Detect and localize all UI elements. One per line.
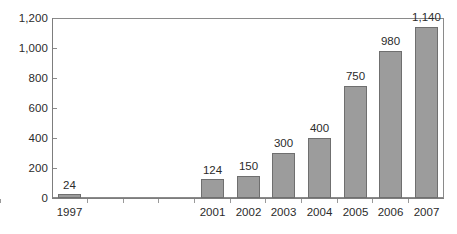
bar-2005[interactable] (344, 86, 367, 199)
x-tick-mark (408, 199, 409, 203)
y-tick-mark-400 (53, 138, 57, 139)
y-tick-mark-200 (53, 168, 57, 169)
bar-2006[interactable] (379, 51, 402, 198)
bar-value-1997: 24 (46, 180, 93, 192)
bar-value-2007: 1,140 (399, 12, 454, 24)
bar-value-2002: 150 (225, 161, 272, 173)
x-tick-mark (0, 199, 1, 203)
y-tick-label-400: 400 (4, 133, 48, 145)
x-tick-mark (87, 199, 88, 203)
bar-2002[interactable] (237, 176, 260, 199)
x-tick-label-1997: 1997 (46, 207, 93, 219)
x-tick-mark (194, 199, 195, 203)
y-tick-mark-600 (53, 108, 57, 109)
x-tick-mark (301, 199, 302, 203)
x-tick-mark (265, 199, 266, 203)
bar-2003[interactable] (272, 153, 295, 198)
x-tick-mark (337, 199, 338, 203)
bar-2004[interactable] (308, 138, 331, 198)
bar-value-2003: 300 (260, 138, 307, 150)
bar-chart-figure: 1,200 1,000 800 600 400 200 0 24 124 150… (0, 0, 457, 234)
y-tick-mark-800 (53, 78, 57, 79)
y-tick-label-0: 0 (4, 193, 48, 205)
y-tick-label-1200: 1,200 (4, 13, 48, 25)
bar-value-2006: 980 (367, 36, 414, 48)
y-tick-label-1000: 1,000 (4, 43, 48, 55)
bar-value-2004: 400 (296, 123, 343, 135)
bar-1997[interactable] (58, 194, 81, 198)
x-tick-mark (230, 199, 231, 203)
y-tick-mark-1000 (53, 48, 57, 49)
x-axis-line (52, 198, 444, 199)
x-tick-mark (372, 199, 373, 203)
x-tick-label-2007: 2007 (403, 207, 450, 219)
bar-2007[interactable] (415, 27, 438, 198)
bar-value-2005: 750 (332, 71, 379, 83)
x-tick-mark (123, 199, 124, 203)
y-tick-label-200: 200 (4, 163, 48, 175)
x-tick-mark (158, 199, 159, 203)
y-axis: 1,200 1,000 800 600 400 200 0 (0, 0, 48, 234)
y-tick-label-600: 600 (4, 103, 48, 115)
y-tick-label-800: 800 (4, 73, 48, 85)
bar-2001[interactable] (201, 179, 224, 198)
